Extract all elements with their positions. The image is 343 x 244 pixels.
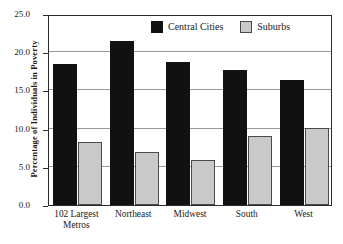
bar-group — [219, 16, 276, 205]
legend-swatch-suburbs — [240, 21, 252, 33]
bar-central-cities — [53, 64, 77, 205]
bar-group — [163, 16, 220, 205]
bar-suburbs — [135, 152, 159, 205]
bar-central-cities — [166, 62, 190, 205]
y-tick-label: 10.0 — [0, 125, 30, 134]
chart-legend: Central CitiesSuburbs — [149, 20, 292, 34]
y-tick-label: 15.0 — [0, 86, 30, 95]
legend-label: Suburbs — [257, 21, 290, 33]
y-tick-label: 25.0 — [0, 10, 30, 19]
x-tick-label: West — [259, 209, 343, 220]
bar-central-cities — [280, 80, 304, 205]
bar-suburbs — [191, 160, 215, 205]
legend-swatch-central-cities — [151, 21, 163, 33]
y-axis-title: Percentage of Individuals in Poverty — [29, 9, 39, 209]
bar-suburbs — [248, 136, 272, 205]
bar-suburbs — [305, 128, 329, 205]
y-tick-label: 5.0 — [0, 163, 30, 172]
bar-suburbs — [78, 142, 102, 205]
y-tick-label: 0.0 — [0, 201, 30, 210]
bar-group — [276, 16, 333, 205]
plot-area — [48, 15, 332, 206]
legend-label: Central Cities — [168, 21, 223, 33]
y-tick-label: 20.0 — [0, 48, 30, 57]
legend-entry: Central Cities — [151, 21, 223, 33]
bar-group — [106, 16, 163, 205]
y-tick-mark — [43, 206, 48, 207]
bar-chart: Percentage of Individuals in Poverty 0.0… — [0, 0, 343, 244]
bar-central-cities — [110, 41, 134, 205]
bar-central-cities — [223, 70, 247, 205]
bar-group — [49, 16, 106, 205]
legend-entry: Suburbs — [240, 21, 290, 33]
